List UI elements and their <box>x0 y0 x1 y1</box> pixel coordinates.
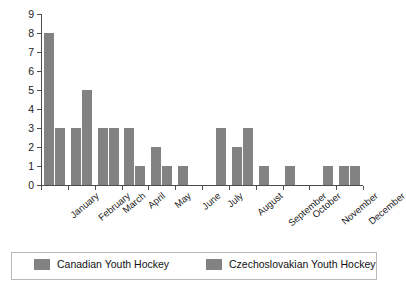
bar <box>135 166 145 185</box>
bar <box>350 166 360 185</box>
bar <box>162 166 172 185</box>
y-axis-tick-label: 2 <box>28 142 34 153</box>
x-axis-label-august: August <box>255 190 285 217</box>
y-axis-tick-label: 3 <box>28 123 34 134</box>
y-axis-tick-label: 5 <box>28 85 34 96</box>
legend-item[interactable]: Czechoslovakian Youth Hockey <box>206 259 376 270</box>
y-axis-tick <box>37 166 41 167</box>
bar <box>82 90 92 185</box>
y-axis-tick <box>37 52 41 53</box>
y-axis-tick-label: 4 <box>28 104 34 115</box>
y-axis-line <box>41 14 42 186</box>
bar <box>44 33 54 185</box>
x-axis-label-may: May <box>172 190 193 210</box>
legend-label: Canadian Youth Hockey <box>57 259 169 270</box>
y-axis-tick-label: 8 <box>28 28 34 39</box>
bar <box>339 166 349 185</box>
y-axis-tick <box>37 71 41 72</box>
x-axis-tick <box>363 186 364 190</box>
y-axis-tick <box>37 109 41 110</box>
bar <box>243 128 253 185</box>
x-axis-labels: JanuaryFebruaryMarchAprilMayJuneJulyAugu… <box>41 190 363 248</box>
y-axis-tick-label: 9 <box>28 9 34 20</box>
y-axis-tick-label: 1 <box>28 161 34 172</box>
plot-area: 0123456789 <box>41 14 363 186</box>
legend: Canadian Youth HockeyCzechoslovakian You… <box>11 252 377 280</box>
y-axis-tick-label: 0 <box>28 180 34 191</box>
legend-item[interactable]: Canadian Youth Hockey <box>34 259 169 270</box>
y-axis-tick-label: 7 <box>28 47 34 58</box>
bar <box>232 147 242 185</box>
x-axis-label-july: July <box>225 190 245 209</box>
bar <box>285 166 295 185</box>
bar <box>178 166 188 185</box>
y-axis-tick <box>37 147 41 148</box>
bar <box>259 166 269 185</box>
bar <box>323 166 333 185</box>
bar <box>216 128 226 185</box>
bar <box>98 128 108 185</box>
bar <box>55 128 65 185</box>
x-axis-label-april: April <box>145 190 167 211</box>
bar <box>151 147 161 185</box>
legend-swatch-icon <box>34 259 50 270</box>
y-axis-tick <box>37 33 41 34</box>
y-axis-tick <box>37 90 41 91</box>
y-axis-tick <box>37 128 41 129</box>
legend-label: Czechoslovakian Youth Hockey <box>229 259 376 270</box>
bar <box>71 128 81 185</box>
bar <box>124 128 134 185</box>
x-axis-label-june: June <box>199 190 222 212</box>
bar <box>109 128 119 185</box>
y-axis-tick <box>37 14 41 15</box>
legend-swatch-icon <box>206 259 222 270</box>
y-axis-tick-label: 6 <box>28 66 34 77</box>
